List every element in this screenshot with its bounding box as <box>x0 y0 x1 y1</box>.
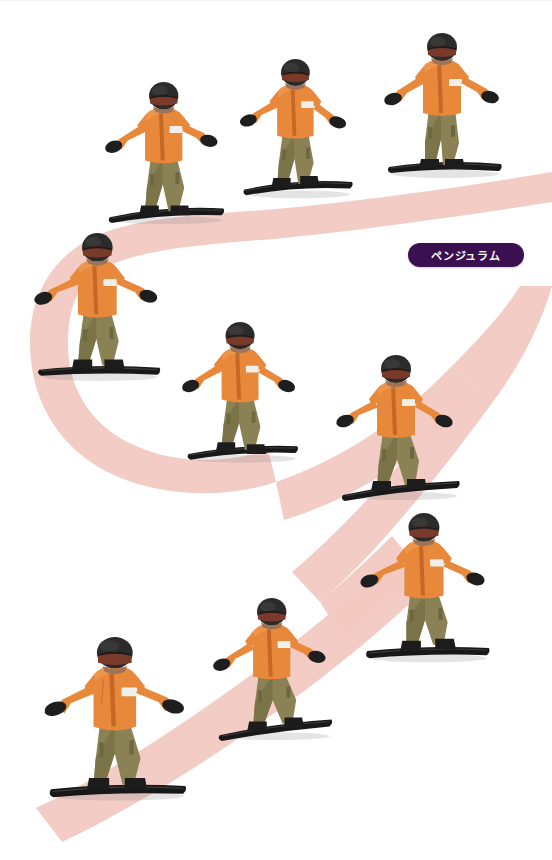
head <box>82 233 113 266</box>
pants <box>377 431 419 487</box>
jacket <box>70 260 125 318</box>
head <box>149 82 178 113</box>
pants <box>78 311 119 366</box>
pants <box>222 396 261 450</box>
pants <box>406 591 447 647</box>
snowboarder-top-middle <box>233 59 358 203</box>
pants <box>425 109 459 165</box>
snowboarder-left-apex <box>31 233 164 386</box>
snowboarder-middle-center <box>177 322 303 468</box>
snowboarder-top-right <box>377 33 507 183</box>
head <box>281 59 310 90</box>
pants <box>94 722 141 785</box>
jacket <box>415 59 469 116</box>
jacket <box>245 623 298 679</box>
technique-badge-label: ペンジュラム <box>431 247 501 263</box>
jacket <box>396 540 452 599</box>
jacket <box>214 347 266 402</box>
snowboarder-bottom-left <box>42 637 188 805</box>
snowboarder-top-left <box>100 82 227 229</box>
head <box>257 598 286 629</box>
snowboarder-right-apex <box>357 513 491 668</box>
jacket <box>137 107 190 163</box>
head <box>381 355 411 387</box>
snowboarder-middle-right <box>331 355 461 505</box>
jacket <box>85 666 145 730</box>
jacket <box>269 84 321 139</box>
pendulum-illustration: ペンジュラム <box>0 0 552 860</box>
head <box>226 322 255 353</box>
head <box>409 513 440 546</box>
snowboarder-bottom-middle <box>208 598 335 745</box>
head <box>427 33 457 65</box>
pants <box>145 156 184 211</box>
jacket <box>369 381 423 438</box>
technique-badge[interactable]: ペンジュラム <box>408 243 524 267</box>
